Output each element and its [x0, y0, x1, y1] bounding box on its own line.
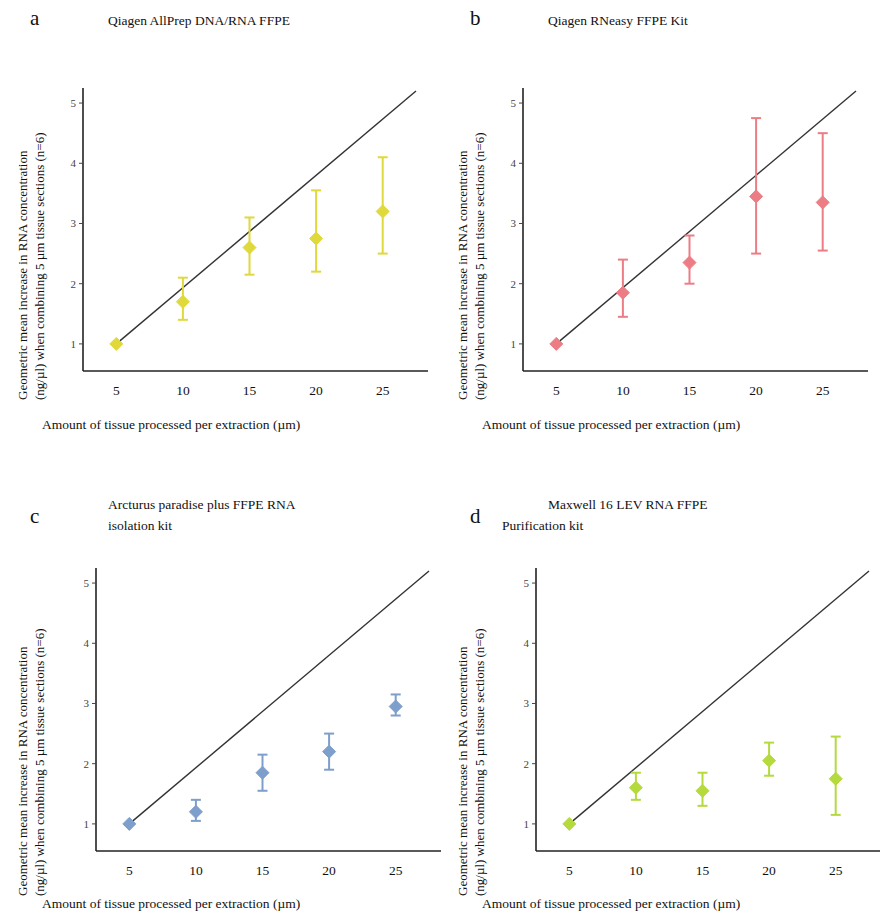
data-point-group — [763, 743, 776, 776]
plot-area-b — [440, 0, 880, 456]
x-tick-label: 10 — [616, 383, 630, 399]
data-point-group — [696, 773, 709, 806]
marker-diamond — [683, 256, 696, 269]
x-axis-label-c: Amount of tissue processed per extractio… — [42, 896, 300, 912]
data-point-group — [189, 800, 202, 821]
data-point-group — [816, 133, 829, 250]
data-point-group — [310, 190, 323, 271]
panel-b: b Qiagen RNeasy FFPE Kit Geometric mean … — [440, 0, 880, 456]
y-tick-label: 3 — [71, 217, 77, 229]
marker-diamond — [310, 232, 323, 245]
data-point-group — [243, 217, 256, 274]
x-tick-label: 20 — [322, 863, 336, 879]
x-axis-label-d: Amount of tissue processed per extractio… — [482, 896, 740, 912]
marker-diamond — [696, 784, 709, 797]
marker-diamond — [829, 772, 842, 785]
chart-svg-c — [0, 456, 440, 912]
data-point-group — [683, 236, 696, 284]
x-tick-label: 20 — [749, 383, 763, 399]
y-tick-label: 2 — [84, 758, 90, 770]
y-tick-label: 2 — [71, 278, 77, 290]
reference-identity-line — [116, 91, 416, 344]
chart-svg-a — [0, 0, 440, 456]
x-axis-label-b: Amount of tissue processed per extractio… — [482, 417, 740, 433]
data-point-group — [323, 734, 336, 770]
x-tick-label: 10 — [176, 383, 190, 399]
marker-diamond — [176, 295, 189, 308]
y-tick-label: 1 — [71, 338, 77, 350]
x-tick-label: 15 — [256, 863, 270, 879]
four-panel-scatter-figure: a Qiagen AllPrep DNA/RNA FFPE Geometric … — [0, 0, 880, 912]
y-tick-label: 5 — [71, 97, 77, 109]
marker-diamond — [256, 766, 269, 779]
panel-c: c Arcturus paradise plus FFPE RNA isolat… — [0, 456, 440, 912]
marker-diamond — [816, 196, 829, 209]
x-tick-label: 5 — [113, 383, 120, 399]
y-tick-label: 3 — [524, 697, 530, 709]
x-tick-label: 10 — [629, 863, 643, 879]
marker-diamond — [629, 781, 642, 794]
y-tick-label: 4 — [511, 157, 517, 169]
plot-area-a — [0, 0, 440, 456]
y-tick-label: 4 — [84, 637, 90, 649]
reference-identity-line — [556, 91, 856, 344]
x-tick-label: 25 — [816, 383, 830, 399]
marker-diamond — [376, 205, 389, 218]
x-tick-label: 15 — [243, 383, 257, 399]
marker-diamond — [189, 805, 202, 818]
data-point-group — [750, 118, 763, 253]
x-tick-label: 15 — [696, 863, 710, 879]
marker-diamond — [323, 745, 336, 758]
marker-diamond — [243, 241, 256, 254]
y-tick-label: 4 — [524, 637, 530, 649]
y-tick-label: 5 — [511, 97, 517, 109]
y-tick-label: 3 — [84, 697, 90, 709]
x-tick-label: 20 — [762, 863, 776, 879]
y-tick-label: 2 — [511, 278, 517, 290]
reference-identity-line — [129, 571, 429, 824]
marker-diamond — [389, 700, 402, 713]
y-tick-label: 2 — [524, 758, 530, 770]
plot-area-c — [0, 456, 440, 912]
x-tick-label: 10 — [189, 863, 203, 879]
y-tick-label: 1 — [84, 818, 90, 830]
reference-identity-line — [569, 571, 869, 824]
chart-svg-b — [440, 0, 880, 456]
panel-a: a Qiagen AllPrep DNA/RNA FFPE Geometric … — [0, 0, 440, 456]
plot-area-d — [440, 456, 880, 912]
x-tick-label: 25 — [829, 863, 843, 879]
marker-diamond — [616, 286, 629, 299]
marker-diamond — [750, 190, 763, 203]
x-tick-label: 15 — [683, 383, 697, 399]
x-tick-label: 20 — [309, 383, 323, 399]
y-tick-label: 1 — [524, 818, 530, 830]
x-tick-label: 5 — [553, 383, 560, 399]
y-tick-label: 4 — [71, 157, 77, 169]
panel-d: d Maxwell 16 LEV RNA FFPE Purification k… — [440, 456, 880, 912]
data-point-group — [829, 737, 842, 815]
data-point-group — [629, 773, 642, 800]
y-tick-label: 5 — [524, 577, 530, 589]
data-point-group — [616, 260, 629, 317]
x-tick-label: 5 — [566, 863, 573, 879]
marker-diamond — [763, 754, 776, 767]
data-point-group — [376, 157, 389, 253]
data-point-group — [256, 755, 269, 791]
y-tick-label: 3 — [511, 217, 517, 229]
x-tick-label: 25 — [376, 383, 390, 399]
chart-svg-d — [440, 456, 880, 912]
data-point-group — [389, 694, 402, 715]
x-tick-label: 5 — [126, 863, 133, 879]
y-tick-label: 5 — [84, 577, 90, 589]
x-tick-label: 25 — [389, 863, 403, 879]
y-tick-label: 1 — [511, 338, 517, 350]
x-axis-label-a: Amount of tissue processed per extractio… — [42, 417, 300, 433]
